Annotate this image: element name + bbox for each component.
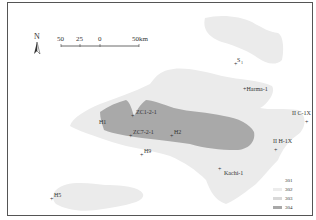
svg-text:II H-1X: II H-1X [273,138,293,144]
svg-text:50: 50 [57,35,65,43]
svg-text:304: 304 [285,205,293,210]
svg-text:ZC7-2-1: ZC7-2-1 [133,129,154,135]
svg-text:ZC1-2-1: ZC1-2-1 [136,109,157,115]
svg-text:50km: 50km [132,35,149,43]
scale-bar: 50 25 0 50km [57,35,149,47]
svg-text:H1: H1 [99,119,106,125]
svg-text:1: 1 [241,60,243,65]
svg-text:303: 303 [285,196,293,201]
svg-text:0: 0 [98,35,102,43]
svg-text:+Harma-1: +Harma-1 [243,86,268,92]
well-H9: + H9 [140,148,151,158]
svg-text:II C-1X: II C-1X [292,110,311,116]
svg-text:25: 25 [76,35,84,43]
svg-text:302: 302 [285,187,293,192]
svg-text:Kachi-1: Kachi-1 [224,170,243,176]
well-S1: + S 1 [234,57,243,67]
legend: 301 302 303 304 [273,178,293,210]
north-arrow-icon: N [34,32,40,54]
well-harma-1: +Harma-1 [243,86,268,92]
svg-text:301: 301 [285,178,293,183]
svg-text:H9: H9 [144,148,151,154]
svg-text:S: S [237,57,240,63]
well-H1: H1 [99,119,106,125]
zone-302-north [204,16,283,64]
svg-text:N: N [34,32,40,41]
svg-text:H5: H5 [54,192,61,198]
svg-text:H2: H2 [174,129,181,135]
svg-text:+: + [305,119,309,125]
zone-302-southwest [53,183,143,211]
map-canvas: N 50 25 0 50km + S 1 +Harma-1 + ZC1-2-1 … [0,0,316,220]
